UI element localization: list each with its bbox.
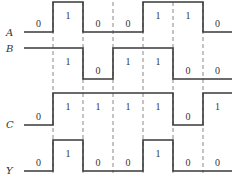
bit-value: 1	[156, 148, 161, 159]
bit-value: 1	[186, 10, 191, 21]
signal-labels: ABCY	[5, 27, 14, 176]
bit-values: 010011010110001111010100100	[36, 10, 220, 168]
bit-value: 0	[36, 111, 41, 122]
bit-value: 1	[96, 101, 101, 112]
bit-value: 0	[126, 157, 131, 168]
signal-label-y: Y	[6, 165, 14, 176]
bit-value: 1	[156, 56, 161, 67]
bit-value: 1	[66, 10, 71, 21]
bit-value: 1	[126, 101, 131, 112]
bit-value: 1	[66, 101, 71, 112]
signal-label-b: B	[5, 43, 13, 54]
bit-value: 1	[215, 101, 220, 112]
bit-value: 0	[96, 157, 101, 168]
bit-value: 0	[186, 157, 191, 168]
bit-value: 0	[126, 18, 131, 29]
bit-value: 0	[215, 18, 220, 29]
bit-value: 0	[186, 65, 191, 76]
bit-value: 1	[126, 56, 131, 67]
bit-value: 1	[156, 10, 161, 21]
timing-diagram: ABCY 010011010110001111010100100	[0, 0, 237, 177]
bit-value: 0	[186, 111, 191, 122]
bit-value: 1	[66, 148, 71, 159]
bit-value: 0	[36, 18, 41, 29]
signal-label-c: C	[6, 119, 14, 130]
bit-value: 0	[96, 65, 101, 76]
signal-label-a: A	[5, 27, 13, 38]
bit-value: 0	[96, 18, 101, 29]
bit-value: 1	[66, 56, 71, 67]
bit-value: 0	[215, 65, 220, 76]
bit-value: 1	[156, 101, 161, 112]
bit-value: 0	[36, 157, 41, 168]
bit-value: 0	[215, 157, 220, 168]
